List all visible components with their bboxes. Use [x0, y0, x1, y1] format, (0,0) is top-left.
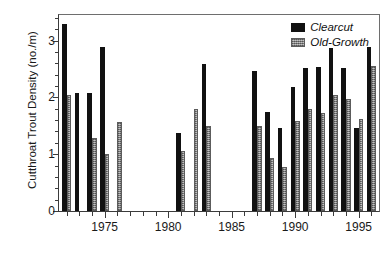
bar-old-growth-1974 — [92, 138, 97, 211]
bar-old-growth-1990 — [295, 121, 300, 211]
x-tick-major — [168, 211, 169, 218]
y-tick-minor — [55, 200, 59, 201]
x-tick-major — [359, 211, 360, 218]
x-tick-minor — [79, 211, 80, 216]
bar-old-growth-1972 — [67, 95, 72, 211]
y-tick-minor — [55, 120, 59, 121]
x-tick-label: 1995 — [345, 220, 372, 234]
x-tick-minor — [130, 211, 131, 216]
bar-old-growth-1983 — [206, 126, 211, 211]
bar-old-growth-1988 — [270, 158, 275, 211]
old-growth-swatch — [291, 38, 305, 47]
clearcut-swatch — [291, 23, 305, 32]
legend-item-clearcut: Clearcut — [291, 21, 369, 33]
x-tick-minor — [282, 211, 283, 216]
y-tick-minor — [55, 86, 59, 87]
x-tick-minor — [194, 211, 195, 216]
bar-old-growth-1995 — [359, 119, 364, 211]
x-tick-label: 1985 — [218, 220, 245, 234]
plot-area: 0123 19751980198519901995 Clearcut Old-G… — [58, 14, 380, 212]
bar-old-growth-1975 — [105, 154, 110, 211]
bar-old-growth-1994 — [346, 99, 351, 211]
x-tick-minor — [321, 211, 322, 216]
y-tick-minor — [55, 166, 59, 167]
x-tick-label: 1980 — [155, 220, 182, 234]
y-tick-minor — [55, 63, 59, 64]
x-tick-major — [105, 211, 106, 218]
y-tick-minor — [55, 188, 59, 189]
y-tick-minor — [55, 131, 59, 132]
legend-item-old-growth: Old-Growth — [291, 36, 369, 48]
x-tick-minor — [244, 211, 245, 216]
x-tick-major — [232, 211, 233, 218]
bar-old-growth-1987 — [257, 126, 262, 211]
x-tick-minor — [257, 211, 258, 216]
x-tick-label: 1975 — [91, 220, 118, 234]
bar-old-growth-1993 — [333, 95, 338, 211]
legend-label-clearcut: Clearcut — [310, 21, 353, 33]
x-tick-minor — [67, 211, 68, 216]
chart-legend: Clearcut Old-Growth — [291, 21, 369, 48]
bar-old-growth-1981 — [181, 151, 186, 211]
x-tick-minor — [333, 211, 334, 216]
x-tick-minor — [181, 211, 182, 216]
x-tick-minor — [206, 211, 207, 216]
bar-clearcut-1973 — [75, 93, 80, 211]
x-tick-minor — [308, 211, 309, 216]
x-tick-major — [295, 211, 296, 218]
y-tick-minor — [55, 75, 59, 76]
y-tick-label: 1 — [48, 147, 55, 161]
x-tick-minor — [156, 211, 157, 216]
x-tick-label: 1990 — [282, 220, 309, 234]
bar-old-growth-1982 — [194, 109, 199, 211]
x-tick-minor — [117, 211, 118, 216]
bar-old-growth-1992 — [321, 113, 326, 211]
x-tick-minor — [270, 211, 271, 216]
bar-old-growth-1991 — [308, 109, 313, 211]
y-tick-label: 2 — [48, 90, 55, 104]
y-tick-minor — [55, 18, 59, 19]
x-tick-minor — [371, 211, 372, 216]
y-tick-minor — [55, 52, 59, 53]
legend-label-old-growth: Old-Growth — [310, 36, 369, 48]
y-tick-minor — [55, 143, 59, 144]
bar-old-growth-1996 — [371, 66, 376, 211]
bar-old-growth-1976 — [117, 122, 122, 211]
y-axis-title: Cutthroat Trout Density (no./m) — [26, 0, 38, 220]
bar-old-growth-1989 — [282, 167, 287, 211]
y-tick-minor — [55, 29, 59, 30]
y-tick-label: 0 — [48, 204, 55, 218]
y-tick-label: 3 — [48, 34, 55, 48]
y-tick-minor — [55, 177, 59, 178]
y-tick-minor — [55, 109, 59, 110]
x-tick-minor — [92, 211, 93, 216]
x-tick-minor — [346, 211, 347, 216]
chart-figure: Cutthroat Trout Density (no./m) 0123 197… — [0, 0, 392, 271]
x-tick-minor — [219, 211, 220, 216]
x-tick-minor — [143, 211, 144, 216]
